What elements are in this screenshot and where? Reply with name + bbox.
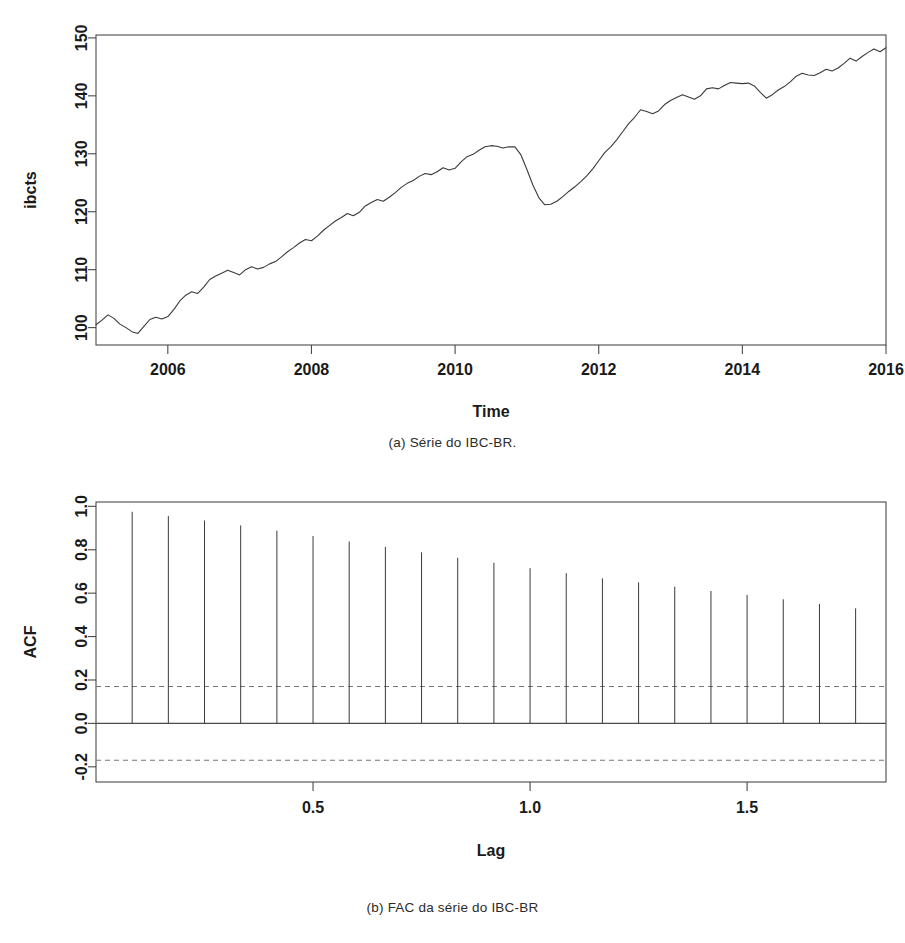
x-tick-label: 2016 [868, 361, 904, 378]
acf-plot: -0.20.00.20.40.60.81.0ACF0.51.01.5Lag [0, 470, 905, 890]
x-axis-title: Time [472, 403, 509, 420]
y-tick-label: 0.0 [74, 712, 91, 734]
figure-series-ibcbr: 100110120130140150ibcts20062008201020122… [0, 0, 905, 470]
figure-b-caption: (b) FAC da série do IBC-BR [0, 900, 905, 915]
x-tick-label: 2010 [437, 361, 473, 378]
y-tick-label: 140 [74, 82, 91, 109]
y-tick-label: 150 [74, 24, 91, 51]
y-tick-label: 110 [74, 257, 91, 283]
y-tick-label: 1.0 [74, 495, 91, 517]
series-line-ibcts [96, 48, 886, 334]
y-tick-label: 0.4 [74, 625, 91, 647]
y-tick-label: 0.2 [74, 669, 91, 691]
x-tick-label: 1.5 [736, 799, 758, 816]
y-tick-label: -0.2 [74, 753, 91, 781]
figure-acf-ibcbr: -0.20.00.20.40.60.81.0ACF0.51.01.5Lag (b… [0, 470, 905, 943]
plot-frame [96, 35, 886, 345]
x-tick-label: 2008 [294, 361, 330, 378]
y-tick-label: 0.6 [74, 582, 91, 604]
y-tick-label: 130 [74, 140, 91, 167]
x-tick-label: 2014 [725, 361, 761, 378]
x-tick-label: 2012 [581, 361, 617, 378]
y-axis-title: ACF [22, 625, 39, 658]
x-tick-label: 0.5 [302, 799, 324, 816]
plot-frame [96, 502, 886, 782]
y-tick-label: 100 [74, 314, 91, 341]
y-tick-label: 120 [74, 198, 91, 225]
x-axis-title: Lag [477, 842, 505, 859]
y-tick-label: 0.8 [74, 539, 91, 561]
y-axis-title: ibcts [22, 171, 39, 208]
x-tick-label: 2006 [150, 361, 186, 378]
figure-a-caption: (a) Série do IBC-BR. [0, 435, 905, 450]
time-series-plot: 100110120130140150ibcts20062008201020122… [0, 0, 905, 425]
x-tick-label: 1.0 [519, 799, 541, 816]
